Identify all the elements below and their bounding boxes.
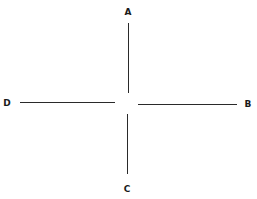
label-right: B (242, 99, 254, 109)
line-bottom (127, 114, 128, 174)
label-bottom: C (121, 184, 133, 194)
line-left (20, 102, 115, 103)
cross-diagram: A B C D (0, 0, 257, 199)
label-top: A (122, 7, 134, 17)
line-top (128, 23, 129, 93)
line-right (138, 104, 237, 105)
label-left: D (1, 98, 13, 108)
